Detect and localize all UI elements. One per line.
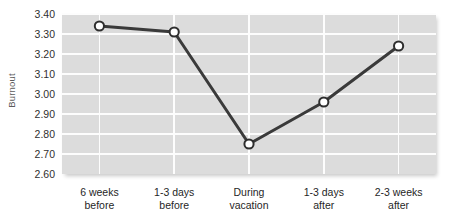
x-axis-tick-label-line: 1-3 days xyxy=(154,186,194,199)
y-axis-tick-label: 2.70 xyxy=(35,148,55,160)
y-axis-tick-label: 3.20 xyxy=(35,48,55,60)
x-axis-tick-label-line: before xyxy=(154,199,194,212)
series-line xyxy=(99,26,398,144)
burnout-series xyxy=(62,14,436,174)
x-axis-tick-label: 1-3 daysbefore xyxy=(154,186,194,211)
x-axis-tick-label-line: 2-3 weeks xyxy=(375,186,423,199)
data-point-marker xyxy=(244,139,253,148)
x-axis-tick-label-line: vacation xyxy=(229,199,268,212)
x-axis-tick-label-line: before xyxy=(80,199,119,212)
x-axis-tick-label: 6 weeksbefore xyxy=(80,186,119,211)
x-axis-tick-label-line: after xyxy=(375,199,423,212)
y-axis-tick-labels: 3.403.303.203.103.002.902.802.702.60 xyxy=(22,0,58,180)
y-axis-tick-label: 2.90 xyxy=(35,108,55,120)
y-axis-tick-label: 3.30 xyxy=(35,28,55,40)
y-axis-tick-label: 2.60 xyxy=(35,168,55,180)
y-axis-tick-label: 3.00 xyxy=(35,88,55,100)
x-axis-tick-labels: 6 weeksbefore1-3 daysbeforeDuringvacatio… xyxy=(62,180,436,220)
x-axis-tick-label-line: 1-3 days xyxy=(304,186,344,199)
x-axis-tick-label: 1-3 daysafter xyxy=(304,186,344,211)
y-axis-title-label: Burnout xyxy=(6,73,17,108)
data-point-marker xyxy=(170,27,179,36)
x-axis-tick-label-line: after xyxy=(304,199,344,212)
data-point-marker xyxy=(95,21,104,30)
data-point-marker xyxy=(394,41,403,50)
plot-area xyxy=(62,14,436,174)
y-axis-tick-label: 2.80 xyxy=(35,128,55,140)
y-axis-title: Burnout xyxy=(0,0,22,180)
x-axis-tick-label: 2-3 weeksafter xyxy=(375,186,423,211)
x-axis-tick-label-line: 6 weeks xyxy=(80,186,119,199)
y-axis-tick-label: 3.40 xyxy=(35,8,55,20)
data-point-marker xyxy=(319,97,328,106)
y-axis-tick-label: 3.10 xyxy=(35,68,55,80)
burnout-line-chart: Burnout 3.403.303.203.103.002.902.802.70… xyxy=(0,0,451,222)
x-axis-tick-label-line: During xyxy=(229,186,268,199)
x-axis-tick-label: Duringvacation xyxy=(229,186,268,211)
